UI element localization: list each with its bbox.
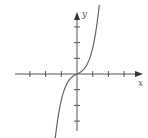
x-axis-label: x <box>138 78 143 88</box>
function-graph: y x <box>0 0 148 138</box>
x-axis-arrow-icon <box>135 71 143 77</box>
y-axis-label: y <box>81 9 88 19</box>
y-axis-arrow-icon <box>74 12 80 20</box>
